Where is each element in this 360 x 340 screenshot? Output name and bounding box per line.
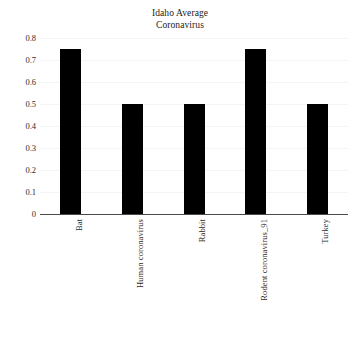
gridline [40,38,348,39]
x-axis-tick-label: Rabbit [194,196,204,219]
y-axis-tick-label: 0.2 [0,165,36,175]
y-axis-tick-label: 0.4 [0,121,36,131]
x-axis-tick-label: Bat [71,207,81,219]
chart-title-line-2: Coronavirus [0,20,360,32]
gridline [40,60,348,61]
y-axis-tick-label: 0.8 [0,33,36,43]
plot-area [40,38,348,214]
y-axis-tick-label: 0.6 [0,77,36,87]
x-axis-tick-label-text: Rabbit [197,219,207,242]
chart-title: Idaho Average Coronavirus [0,8,360,31]
gridline [40,82,348,83]
y-axis-tick-label: 0.1 [0,187,36,197]
bar[interactable] [60,49,81,214]
y-axis-tick-label: 0.7 [0,55,36,65]
y-axis-tick-label: 0.5 [0,99,36,109]
x-axis-tick-label: Turkey [317,194,327,219]
y-axis-tick-labels: 0.80.70.60.50.40.30.20.10 [0,0,36,340]
x-axis-tick-label-text: Rodent coronavirus_91 [259,219,269,301]
y-axis-tick-label: 0 [0,209,36,219]
chart-title-line-1: Idaho Average [0,8,360,20]
x-axis-tick-label-text: Turkey [320,219,330,244]
x-axis-tick-label-text: Bat [74,219,84,231]
x-axis-tick-label: Rodent coronavirus_91 [256,137,266,219]
x-axis-tick-label: Human coronavirus [132,150,142,219]
chart-figure: Idaho Average Coronavirus 0.80.70.60.50.… [0,0,360,340]
x-axis-tick-label-text: Human coronavirus [135,219,145,288]
y-axis-tick-label: 0.3 [0,143,36,153]
